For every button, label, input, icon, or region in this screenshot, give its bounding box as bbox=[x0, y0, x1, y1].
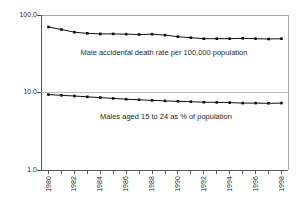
x-axis-tick-label: 1980 bbox=[45, 173, 53, 195]
x-axis-tick-label: 1990 bbox=[174, 173, 182, 195]
x-axis-tick-label: 1994 bbox=[226, 173, 234, 195]
x-axis-tick-labels: 1980198219841986198819901992199419961998 bbox=[0, 0, 304, 215]
x-axis-tick-label: 1996 bbox=[252, 173, 260, 195]
x-axis-tick-label: 1984 bbox=[96, 173, 104, 195]
x-axis-tick-label: 1998 bbox=[278, 173, 286, 195]
x-axis-tick-label: 1988 bbox=[148, 173, 156, 195]
x-axis-tick-label: 1986 bbox=[122, 173, 130, 195]
log-scale-line-chart: 100.0 10.0 1.0 Male accidental death rat… bbox=[0, 0, 304, 215]
x-axis-tick-label: 1982 bbox=[70, 173, 78, 195]
x-axis-tick-label: 1992 bbox=[200, 173, 208, 195]
